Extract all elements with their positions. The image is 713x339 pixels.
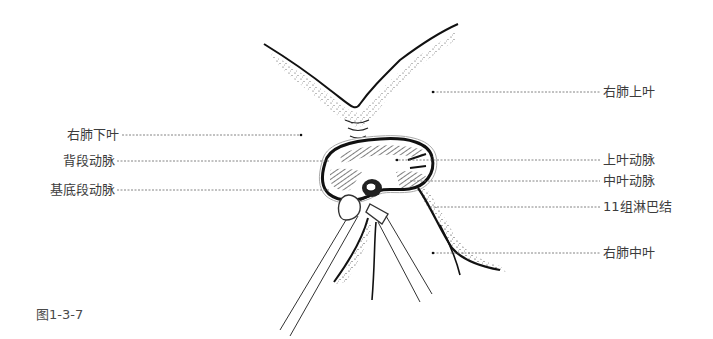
label-station-11-lymph-node: 11组淋巴结 (603, 199, 672, 215)
middle-lobe-border-drawing (418, 186, 506, 275)
label-right-middle-lobe: 右肺中叶 (603, 245, 655, 261)
label-superior-segment-artery: 背段动脉 (63, 153, 115, 169)
label-basal-segment-artery: 基底段动脉 (50, 182, 115, 198)
figure-caption: 图1-3-7 (36, 304, 83, 323)
surgical-illustration-figure: 右肺下叶 背段动脉 基底段动脉 右肺上叶 上叶动脉 中叶动脉 11组淋巴结 右肺… (0, 0, 713, 339)
label-upper-lobe-artery: 上叶动脉 (603, 152, 655, 168)
surgical-instruments-drawing (280, 195, 432, 336)
label-middle-lobe-artery: 中叶动脉 (603, 173, 655, 189)
label-right-lower-lobe: 右肺下叶 (67, 127, 119, 143)
label-right-upper-lobe: 右肺上叶 (603, 84, 655, 100)
upper-fissure-drawing (264, 24, 458, 138)
lung-hilum-illustration (0, 0, 713, 339)
